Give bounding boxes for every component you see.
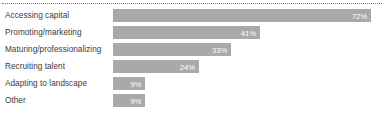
bar-row: Accessing capital 72% [0,9,384,22]
bar-fill: 41% [113,26,260,39]
bar-value-label: 33% [212,45,227,54]
bar-row: Other 9% [0,94,384,107]
bar-track: 72% [113,9,382,22]
bar-category-label: Other [5,96,26,106]
bar-fill: 72% [113,9,371,22]
bar-value-label: 24% [180,62,195,71]
bar-value-label: 9% [130,96,141,105]
bar-fill: 24% [113,60,199,73]
bar-fill: 9% [113,94,145,107]
bar-track: 9% [113,94,382,107]
bar-track: 9% [113,77,382,90]
bar-fill: 33% [113,43,231,56]
bar-fill: 9% [113,77,145,90]
bar-track: 33% [113,43,382,56]
bar-category-label: Adapting to landscape [5,79,87,89]
bar-value-label: 72% [352,11,367,20]
bar-track: 41% [113,26,382,39]
bar-category-label: Recruiting talent [5,62,65,72]
bar-category-label: Maturing/professionalizing [5,45,101,55]
bar-row: Adapting to landscape 9% [0,77,384,90]
bar-category-label: Accessing capital [5,11,69,21]
bar-value-label: 9% [130,79,141,88]
bar-track: 24% [113,60,382,73]
bar-category-label: Promoting/marketing [5,28,82,38]
bar-rows: Accessing capital 72% Promoting/marketin… [0,9,384,111]
bar-row: Maturing/professionalizing 33% [0,43,384,56]
bar-chart: Accessing capital 72% Promoting/marketin… [0,0,384,122]
dotted-divider [2,3,382,4]
bar-value-label: 41% [241,28,256,37]
bar-row: Recruiting talent 24% [0,60,384,73]
bar-row: Promoting/marketing 41% [0,26,384,39]
